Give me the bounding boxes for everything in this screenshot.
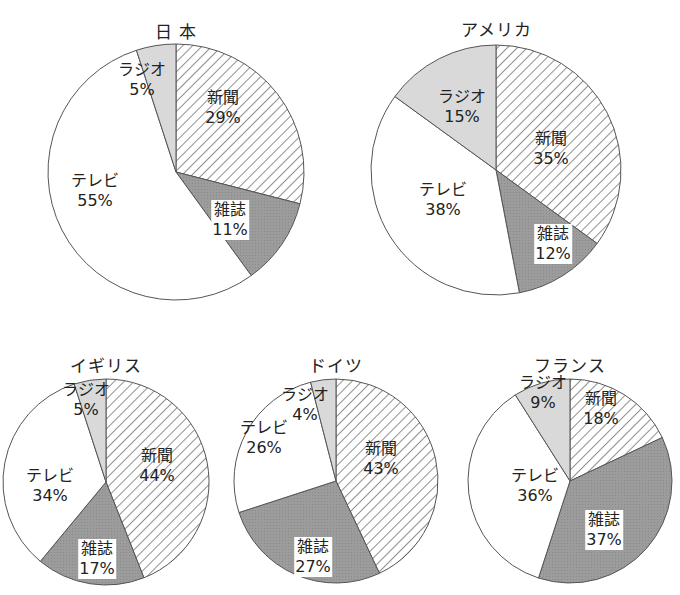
slice-category: ラジオ bbox=[118, 60, 166, 80]
slice-category: 新聞 bbox=[139, 446, 175, 466]
slice-percent: 34% bbox=[26, 486, 74, 506]
slice-category: ラジオ bbox=[519, 373, 567, 393]
chart-title-japan: 日 本 bbox=[155, 18, 197, 43]
slice-label-uk-radio: ラジオ5% bbox=[62, 380, 110, 420]
slice-category: 雑誌 bbox=[78, 539, 116, 559]
pie-france bbox=[468, 379, 672, 583]
slice-percent: 5% bbox=[62, 400, 110, 420]
slice-category: テレビ bbox=[419, 180, 467, 200]
slice-label-japan-television: テレビ55% bbox=[71, 171, 119, 211]
slice-category: ラジオ bbox=[281, 385, 329, 405]
slice-category: 雑誌 bbox=[294, 537, 332, 557]
chart-title-germany: ドイツ bbox=[309, 352, 363, 377]
slice-category: テレビ bbox=[71, 171, 119, 191]
media-share-pie-charts: 日 本 アメリカ イギリス ドイツ フランス 新聞29%雑誌11%テレビ55%ラ… bbox=[0, 0, 680, 595]
slice-percent: 44% bbox=[139, 466, 175, 486]
slice-label-usa-magazine: 雑誌12% bbox=[534, 224, 572, 264]
slice-label-usa-radio: ラジオ15% bbox=[438, 87, 486, 127]
slice-percent: 4% bbox=[281, 405, 329, 425]
slice-label-uk-magazine: 雑誌17% bbox=[78, 539, 116, 579]
slice-category: 新聞 bbox=[583, 389, 619, 409]
slice-label-japan-radio: ラジオ5% bbox=[118, 60, 166, 100]
slice-label-france-television: テレビ36% bbox=[511, 466, 559, 506]
slice-label-france-newspaper: 新聞18% bbox=[583, 389, 619, 429]
pie-germany bbox=[234, 379, 438, 583]
slice-percent: 37% bbox=[585, 530, 623, 550]
pie-chart-canvas bbox=[0, 0, 680, 595]
slice-percent: 9% bbox=[519, 393, 567, 413]
slice-category: 雑誌 bbox=[534, 224, 572, 244]
slice-label-germany-radio: ラジオ4% bbox=[281, 385, 329, 425]
slice-category: 新聞 bbox=[205, 88, 241, 108]
slice-percent: 29% bbox=[205, 108, 241, 128]
slice-percent: 5% bbox=[118, 80, 166, 100]
slice-percent: 26% bbox=[240, 438, 288, 458]
slice-percent: 11% bbox=[211, 220, 249, 240]
slice-percent: 36% bbox=[511, 486, 559, 506]
pie-usa bbox=[371, 45, 621, 295]
slice-percent: 35% bbox=[533, 149, 569, 169]
slice-label-usa-television: テレビ38% bbox=[419, 180, 467, 220]
chart-title-usa: アメリカ bbox=[461, 16, 532, 41]
slice-category: テレビ bbox=[26, 466, 74, 486]
slice-label-japan-newspaper: 新聞29% bbox=[205, 88, 241, 128]
slice-label-france-radio: ラジオ9% bbox=[519, 373, 567, 413]
slice-percent: 27% bbox=[294, 557, 332, 577]
slice-category: ラジオ bbox=[438, 87, 486, 107]
slice-category: ラジオ bbox=[62, 380, 110, 400]
slice-category: テレビ bbox=[511, 466, 559, 486]
slice-percent: 18% bbox=[583, 409, 619, 429]
slice-label-france-magazine: 雑誌37% bbox=[585, 510, 623, 550]
slice-percent: 38% bbox=[419, 200, 467, 220]
chart-title-uk: イギリス bbox=[70, 352, 142, 377]
slice-percent: 17% bbox=[78, 559, 116, 579]
slice-category: 新聞 bbox=[533, 129, 569, 149]
slice-label-japan-magazine: 雑誌11% bbox=[211, 200, 249, 240]
slice-percent: 55% bbox=[71, 191, 119, 211]
slice-percent: 12% bbox=[534, 244, 572, 264]
slice-label-uk-newspaper: 新聞44% bbox=[139, 446, 175, 486]
slice-percent: 43% bbox=[363, 459, 399, 479]
slice-label-germany-magazine: 雑誌27% bbox=[294, 537, 332, 577]
slice-category: 雑誌 bbox=[211, 200, 249, 220]
slice-category: 雑誌 bbox=[585, 510, 623, 530]
slice-label-germany-newspaper: 新聞43% bbox=[363, 439, 399, 479]
slice-label-usa-newspaper: 新聞35% bbox=[533, 129, 569, 169]
slice-percent: 15% bbox=[438, 107, 486, 127]
slice-label-uk-television: テレビ34% bbox=[26, 466, 74, 506]
slice-category: 新聞 bbox=[363, 439, 399, 459]
